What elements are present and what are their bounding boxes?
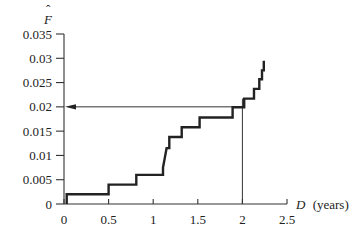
x-tick-label: 0: [61, 212, 68, 227]
y-tick-label: 0.015: [23, 124, 52, 139]
y-tick-label: 0.035: [23, 27, 52, 42]
step-series: [67, 61, 264, 204]
step-chart: 00.511.522.500.0050.010.0150.020.0250.03…: [0, 0, 354, 242]
x-axis-var: D: [295, 197, 306, 212]
x-tick-label: 2: [239, 212, 246, 227]
x-axis-label: D (years): [295, 197, 349, 212]
y-tick-label: 0.03: [29, 51, 52, 66]
y-tick-label: 0.02: [29, 99, 52, 114]
y-tick-label: 0: [46, 197, 53, 212]
y-tick-label: 0.005: [23, 172, 52, 187]
axes: [64, 34, 287, 204]
x-tick-label: 1.5: [190, 212, 206, 227]
x-tick-label: 0.5: [100, 212, 116, 227]
x-tick-label: 1: [150, 212, 157, 227]
arrow-head-icon: [65, 104, 76, 109]
y-tick-label: 0.025: [23, 75, 52, 90]
x-axis-unit: (years): [313, 197, 349, 212]
annotations: [65, 99, 242, 204]
x-tick-label: 2.5: [279, 212, 295, 227]
y-tick-label: 0.01: [29, 148, 52, 163]
y-axis-label-hat: ˆ: [46, 2, 51, 17]
